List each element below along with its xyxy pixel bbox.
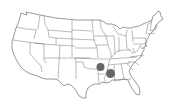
us-map bbox=[0, 0, 178, 105]
marker-mississippi[interactable] bbox=[106, 69, 115, 78]
marker-arkansas[interactable] bbox=[97, 63, 105, 71]
us-outline bbox=[12, 11, 163, 98]
